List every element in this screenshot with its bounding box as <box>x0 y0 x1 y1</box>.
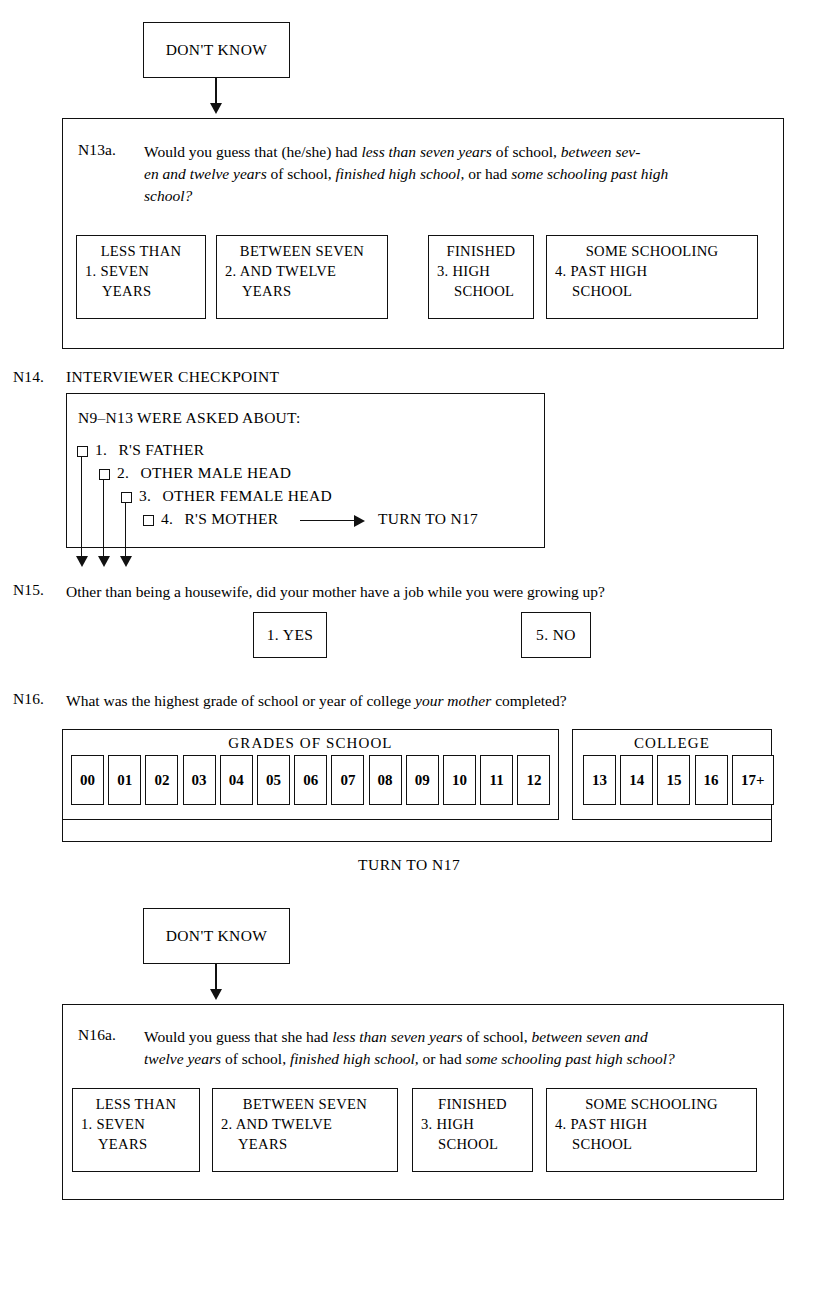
n16-question-text: What was the highest grade of school or … <box>66 690 816 712</box>
n14-item-1: 1. R'S FATHER <box>95 441 204 459</box>
n14-item-2-label: OTHER MALE HEAD <box>140 464 291 481</box>
grade-cell-02[interactable]: 02 <box>145 755 178 805</box>
grade-cell-12[interactable]: 12 <box>517 755 550 805</box>
n14-item-1-label: R'S FATHER <box>118 441 204 458</box>
n16a-question-text: Would you guess that she had less than s… <box>144 1026 774 1070</box>
n16a-option-4-line3: SCHOOL <box>547 1134 756 1154</box>
n16a-option-3[interactable]: FINISHED 3. HIGH SCHOOL <box>412 1088 533 1172</box>
grade-cell-10[interactable]: 10 <box>443 755 476 805</box>
grade-cell-06[interactable]: 06 <box>294 755 327 805</box>
n16a-option-3-line1: FINISHED <box>413 1094 532 1114</box>
n16a-number: N16a. <box>78 1026 116 1044</box>
n16a-option-4[interactable]: SOME SCHOOLING 4. PAST HIGH SCHOOL <box>546 1088 757 1172</box>
n13a-option-4-line3: SCHOOL <box>547 281 757 301</box>
n16a-option-3-line2: 3. HIGH <box>413 1114 532 1134</box>
n14-checkbox-2[interactable] <box>99 469 110 480</box>
n14-mother-arrow <box>354 515 365 527</box>
college-cell-14[interactable]: 14 <box>620 755 653 805</box>
n13a-option-2-line2: 2. AND TWELVE <box>217 261 387 281</box>
dont-know-box-1[interactable]: DON'T KNOW <box>143 22 290 78</box>
n14-item-3: 3. OTHER FEMALE HEAD <box>139 487 332 505</box>
dont-know-arrow-1 <box>210 103 222 114</box>
n13a-question-text: Would you guess that (he/she) had less t… <box>144 141 774 207</box>
n15-question-text: Other than being a housewife, did your m… <box>66 581 816 603</box>
grade-cell-09[interactable]: 09 <box>406 755 439 805</box>
n13a-option-2[interactable]: BETWEEN SEVEN 2. AND TWELVE YEARS <box>216 235 388 319</box>
grade-cell-01[interactable]: 01 <box>108 755 141 805</box>
n16a-option-1-line1: LESS THAN <box>73 1094 199 1114</box>
college-cell-16[interactable]: 16 <box>695 755 728 805</box>
n16a-option-2-line2: 2. AND TWELVE <box>213 1114 397 1134</box>
n14-skip-line-1 <box>81 457 82 561</box>
questionnaire-page: DON'T KNOW N13a. Would you guess that (h… <box>0 0 819 1310</box>
n15-yes-box[interactable]: 1. YES <box>253 612 327 658</box>
n14-item-3-label: OTHER FEMALE HEAD <box>162 487 332 504</box>
n14-skip-arrow-1 <box>76 556 88 567</box>
n13a-option-4-line1: SOME SCHOOLING <box>547 241 757 261</box>
n16-bracket-right <box>771 820 772 842</box>
n13a-option-2-line3: YEARS <box>217 281 387 301</box>
n15-number: N15. <box>13 581 44 599</box>
n13a-option-4-line2: 4. PAST HIGH <box>547 261 757 281</box>
n16a-option-4-line1: SOME SCHOOLING <box>547 1094 756 1114</box>
n14-item-3-num: 3. <box>139 487 151 504</box>
grade-cell-04[interactable]: 04 <box>220 755 253 805</box>
n16a-option-2-line1: BETWEEN SEVEN <box>213 1094 397 1114</box>
n16a-option-3-line3: SCHOOL <box>413 1134 532 1154</box>
n15-yes-label: 1. YES <box>267 626 314 644</box>
n15-no-label: 5. NO <box>536 626 576 644</box>
college-cell-15[interactable]: 15 <box>657 755 690 805</box>
n14-heading: N9–N13 WERE ASKED ABOUT: <box>78 409 301 427</box>
n14-item-4-label: R'S MOTHER <box>184 510 278 527</box>
n14-item-4: 4. R'S MOTHER <box>161 510 279 528</box>
n14-mother-connector <box>300 520 354 521</box>
n14-item-2-num: 2. <box>117 464 129 481</box>
grade-cell-05[interactable]: 05 <box>257 755 290 805</box>
n13a-option-1-line3: YEARS <box>77 281 205 301</box>
n14-checkbox-4[interactable] <box>143 515 154 526</box>
n14-item-4-num: 4. <box>161 510 173 527</box>
dont-know-arrow-2 <box>210 989 222 1000</box>
n14-skip-line-2 <box>103 480 104 561</box>
college-cell-17plus[interactable]: 17+ <box>732 755 774 805</box>
grade-cell-11[interactable]: 11 <box>480 755 513 805</box>
n14-goto-label: TURN TO N17 <box>378 510 478 528</box>
n16a-option-1[interactable]: LESS THAN 1. SEVEN YEARS <box>72 1088 200 1172</box>
n14-number: N14. <box>13 368 44 386</box>
n14-skip-line-3 <box>125 503 126 561</box>
n14-skip-arrow-2 <box>98 556 110 567</box>
dont-know-box-2[interactable]: DON'T KNOW <box>143 908 290 964</box>
n16a-option-2-line3: YEARS <box>213 1134 397 1154</box>
n16-grades-title: GRADES OF SCHOOL <box>63 735 558 752</box>
n13a-option-4[interactable]: SOME SCHOOLING 4. PAST HIGH SCHOOL <box>546 235 758 319</box>
n16-bracket-left <box>62 820 63 842</box>
n16-number: N16. <box>13 690 44 708</box>
n14-checkbox-3[interactable] <box>121 492 132 503</box>
n14-item-2: 2. OTHER MALE HEAD <box>117 464 291 482</box>
n14-item-1-num: 1. <box>95 441 107 458</box>
n16-turn-label: TURN TO N17 <box>358 856 460 874</box>
n13a-option-3-line2: 3. HIGH <box>429 261 533 281</box>
n16a-option-4-line2: 4. PAST HIGH <box>547 1114 756 1134</box>
n14-skip-arrow-3 <box>120 556 132 567</box>
n15-no-box[interactable]: 5. NO <box>521 612 591 658</box>
n16-bracket-bottom <box>62 841 772 842</box>
n16a-option-2[interactable]: BETWEEN SEVEN 2. AND TWELVE YEARS <box>212 1088 398 1172</box>
grade-cell-07[interactable]: 07 <box>331 755 364 805</box>
n13a-option-1-line2: 1. SEVEN <box>77 261 205 281</box>
dont-know-label-2: DON'T KNOW <box>166 927 268 945</box>
n13a-option-1-line1: LESS THAN <box>77 241 205 261</box>
dont-know-label-1: DON'T KNOW <box>166 41 268 59</box>
n13a-option-3-line3: SCHOOL <box>429 281 533 301</box>
n16a-option-1-line2: 1. SEVEN <box>73 1114 199 1134</box>
n13a-number: N13a. <box>78 141 116 159</box>
n13a-option-1[interactable]: LESS THAN 1. SEVEN YEARS <box>76 235 206 319</box>
n13a-option-3-line1: FINISHED <box>429 241 533 261</box>
grade-cell-03[interactable]: 03 <box>183 755 216 805</box>
grade-cell-08[interactable]: 08 <box>369 755 402 805</box>
n13a-option-3[interactable]: FINISHED 3. HIGH SCHOOL <box>428 235 534 319</box>
n13a-option-2-line1: BETWEEN SEVEN <box>217 241 387 261</box>
n14-checkbox-1[interactable] <box>77 446 88 457</box>
grade-cell-00[interactable]: 00 <box>71 755 104 805</box>
college-cell-13[interactable]: 13 <box>583 755 616 805</box>
